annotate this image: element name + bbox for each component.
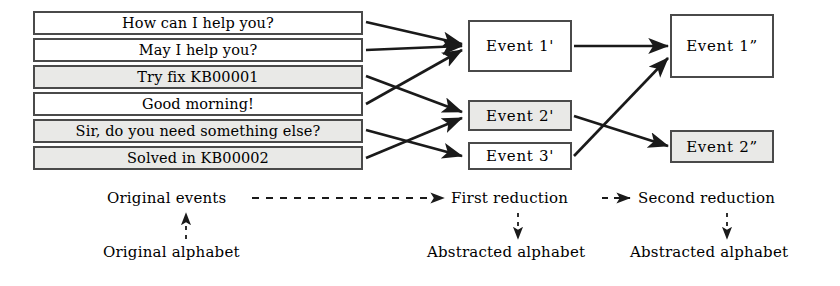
edge-event3p-to-event1pp [574, 58, 668, 156]
original-event-label: Try fix KB00001 [137, 70, 258, 85]
second-reduction-event-box[interactable]: Event 1” [670, 14, 774, 78]
edge-original2-to-event1p [366, 46, 462, 50]
alphabet-label-original: Original alphabet [103, 243, 240, 261]
first-reduction-event-box[interactable]: Event 2' [468, 100, 572, 131]
first-reduction-event-box[interactable]: Event 1' [468, 20, 572, 72]
edge-original4-to-event1p [366, 50, 462, 104]
original-event-box[interactable]: Try fix KB00001 [33, 65, 363, 89]
edge-original6-to-event2p [366, 118, 462, 158]
edge-original3-to-event2p [366, 76, 462, 112]
first-reduction-event-label: Event 1' [486, 37, 554, 55]
original-event-box[interactable]: Sir, do you need something else? [33, 119, 363, 143]
alphabet-label-first: Abstracted alphabet [427, 243, 585, 261]
original-event-box[interactable]: Good morning! [33, 92, 363, 116]
original-event-box[interactable]: May I help you? [33, 38, 363, 62]
stage-label-original: Original events [107, 189, 226, 207]
edge-original5-to-event3p [366, 130, 462, 156]
original-event-box[interactable]: Solved in KB00002 [33, 146, 363, 170]
original-event-label: Solved in KB00002 [127, 151, 269, 166]
second-reduction-event-label: Event 2” [686, 138, 758, 156]
original-event-label: How can I help you? [122, 16, 274, 31]
original-event-box[interactable]: How can I help you? [33, 11, 363, 35]
edge-original1-to-event1p [366, 22, 462, 44]
diagram-canvas: How can I help you? May I help you? Try … [0, 0, 840, 286]
alphabet-label-second: Abstracted alphabet [630, 243, 788, 261]
first-reduction-event-label: Event 2' [486, 107, 554, 125]
stage-label-second: Second reduction [638, 189, 775, 207]
original-event-label: Good morning! [142, 97, 254, 112]
original-event-label: May I help you? [139, 43, 258, 58]
original-event-label: Sir, do you need something else? [76, 124, 321, 139]
second-reduction-event-box[interactable]: Event 2” [670, 130, 774, 163]
first-reduction-event-label: Event 3' [486, 147, 554, 165]
first-reduction-event-box[interactable]: Event 3' [468, 142, 572, 170]
stage-label-first: First reduction [451, 189, 568, 207]
second-reduction-event-label: Event 1” [686, 37, 758, 55]
edge-event2p-to-event2pp [574, 116, 668, 146]
